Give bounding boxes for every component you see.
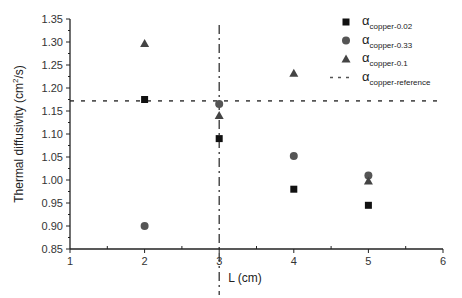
legend: αcopper-0.02αcopper-0.33αcopper-0.1αcopp…	[330, 13, 431, 87]
y-tick-label: 1.20	[42, 82, 63, 94]
x-tick-label: 4	[291, 255, 297, 267]
scatter-chart: 0.850.900.951.001.051.101.151.201.251.30…	[0, 0, 462, 298]
legend-label: αcopper-reference	[362, 69, 431, 87]
data-point-square	[365, 202, 372, 209]
x-tick-label: 6	[440, 255, 446, 267]
x-axis-label: L (cm)	[228, 271, 262, 285]
y-tick-label: 1.25	[42, 59, 63, 71]
legend-item: αcopper-0.02	[343, 13, 413, 31]
legend-item: αcopper-0.33	[342, 32, 413, 50]
data-point-circle	[290, 152, 298, 160]
legend-label: αcopper-0.1	[362, 50, 408, 68]
y-tick-label: 1.05	[42, 151, 63, 163]
data-point-square	[290, 186, 297, 193]
data-point-square	[216, 135, 223, 142]
data-point-triangle	[289, 69, 298, 77]
legend-label: αcopper-0.02	[362, 13, 413, 31]
legend-circle-icon	[342, 37, 350, 45]
y-tick-label: 1.10	[42, 128, 63, 140]
data-point-circle	[141, 222, 149, 230]
legend-item: αcopper-reference	[330, 69, 431, 87]
legend-item: αcopper-0.1	[342, 50, 409, 68]
x-tick-label: 3	[216, 255, 222, 267]
legend-square-icon	[343, 19, 350, 26]
data-point-circle	[215, 100, 223, 108]
data-point-triangle	[140, 39, 149, 47]
y-tick-label: 0.90	[42, 220, 63, 232]
y-tick-label: 1.30	[42, 36, 63, 48]
data-point-square	[141, 96, 148, 103]
y-tick-label: 0.85	[42, 243, 63, 255]
axes: 0.850.900.951.001.051.101.151.201.251.30…	[42, 13, 446, 267]
y-tick-label: 0.95	[42, 197, 63, 209]
legend-triangle-icon	[342, 55, 351, 63]
data-point-triangle	[215, 111, 224, 119]
x-tick-label: 5	[365, 255, 371, 267]
legend-label: αcopper-0.33	[362, 32, 413, 50]
x-tick-label: 2	[142, 255, 148, 267]
y-tick-label: 1.35	[42, 13, 63, 25]
y-tick-label: 1.00	[42, 174, 63, 186]
x-tick-label: 1	[67, 255, 73, 267]
y-axis-label: Thermal diffusivity (cm2/s)	[11, 65, 26, 203]
y-tick-label: 1.15	[42, 105, 63, 117]
